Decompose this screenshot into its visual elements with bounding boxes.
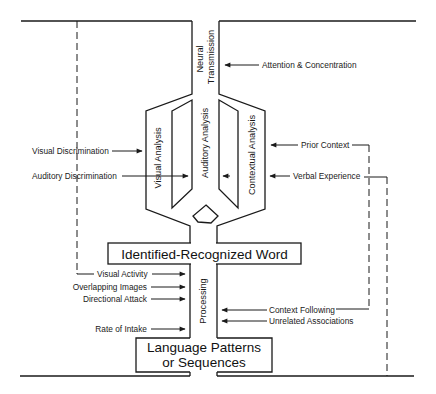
svg-text:Context Following: Context Following (269, 305, 335, 315)
svg-text:Unrelated Associations: Unrelated Associations (269, 316, 353, 326)
input-unrelated-associations: Unrelated Associations (222, 316, 353, 326)
contextual-analysis-label: Contextual Analysis (247, 115, 257, 196)
svg-text:Overlapping Images: Overlapping Images (73, 282, 147, 292)
identified-word-label: Identified-Recognized Word (121, 247, 287, 262)
svg-text:Directional Attack: Directional Attack (83, 294, 148, 304)
input-visual-activity: Visual Activity (97, 269, 185, 279)
svg-text:Auditory Discrimination: Auditory Discrimination (32, 171, 117, 181)
svg-text:Verbal Experience: Verbal Experience (293, 171, 361, 181)
input-prior-context: Prior Context (271, 140, 369, 309)
visual-analysis-label: Visual Analysis (153, 127, 163, 189)
language-patterns-label-1: Language Patterns (147, 340, 261, 355)
neural-label-2: Transmission (206, 30, 216, 84)
svg-text:Visual Activity: Visual Activity (97, 269, 148, 279)
input-directional-attack: Directional Attack (83, 294, 185, 304)
input-context-following: Context Following (222, 305, 335, 315)
input-auditory-discrimination: Auditory Discrimination (32, 171, 146, 181)
svg-text:Attention & Concentration: Attention & Concentration (262, 60, 357, 70)
input-overlapping-images: Overlapping Images (73, 282, 185, 292)
input-rate-of-intake: Rate of Intake (95, 324, 185, 334)
svg-text:Prior Context: Prior Context (301, 140, 350, 150)
input-visual-discrimination: Visual Discrimination (32, 146, 142, 156)
input-attention: Attention & Concentration (225, 60, 357, 70)
auditory-analysis-label: Auditory Analysis (200, 108, 210, 178)
identified-word-box: Identified-Recognized Word (108, 243, 301, 264)
svg-text:Rate of Intake: Rate of Intake (95, 324, 147, 334)
convergence-shape (193, 205, 218, 223)
neural-label-1: Neural (195, 45, 205, 72)
processing-label: Processing (198, 278, 208, 323)
language-patterns-label-2: or Sequences (162, 355, 246, 370)
reading-process-diagram: Identified-Recognized Word Language Patt… (0, 0, 436, 394)
language-patterns-box: Language Patterns or Sequences (136, 338, 272, 372)
svg-text:Visual Discrimination: Visual Discrimination (32, 146, 109, 156)
